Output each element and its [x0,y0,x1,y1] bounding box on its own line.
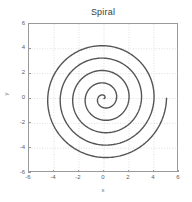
y-tick-label: 4 [3,44,25,51]
x-axis-label: x [28,186,178,194]
x-tick-label: 2 [118,174,138,181]
x-tick-label: -4 [43,174,63,181]
data-series-group [48,46,167,158]
y-tick-label: 6 [3,20,25,27]
x-tick-label: -6 [18,174,38,181]
chart-title: Spiral [28,6,178,18]
plot-area [28,23,178,172]
y-tick-label: -2 [3,119,25,126]
x-tick-label: 0 [93,174,113,181]
y-tickmark [28,73,31,74]
y-tickmark [28,48,31,49]
x-tickmark [28,170,29,173]
x-tickmark [153,170,154,173]
x-tick-label: -2 [68,174,88,181]
y-tickmark [28,172,31,173]
x-tickmark [78,170,79,173]
y-axis-label: y [2,84,10,104]
plot-canvas [29,24,179,173]
y-tickmark [28,23,31,24]
y-tickmark [28,147,31,148]
x-tick-label: 6 [168,174,188,181]
y-tick-label: -4 [3,144,25,151]
y-tickmark [28,122,31,123]
y-tick-label: 2 [3,69,25,76]
series-line-spiral [48,46,167,158]
x-tickmark [128,170,129,173]
x-tickmark [53,170,54,173]
x-tick-label: 4 [143,174,163,181]
chart-figure: Spiral -6-4-20246 -6-4-20246 x y [0,0,192,202]
y-tickmark [28,98,31,99]
x-tickmark [103,170,104,173]
x-tickmark [178,170,179,173]
